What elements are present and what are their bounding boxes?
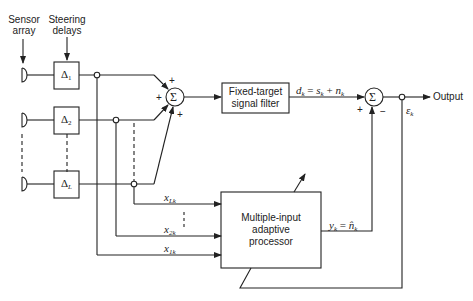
yk-label: yk = n̂k xyxy=(329,219,357,233)
tap-node-L xyxy=(131,181,137,187)
summer-1-symbol: Σ xyxy=(170,90,177,105)
input-x2k-label: x2k xyxy=(164,223,176,237)
adaptive-processor-label: Multiple-input adaptive processor xyxy=(221,192,321,268)
summer-2-symbol: Σ xyxy=(369,90,376,105)
output-label: Output xyxy=(433,91,463,102)
input-xLk-label: xLk xyxy=(164,191,176,205)
sensor-2-icon xyxy=(22,113,27,127)
fixed-target-filter-label: Fixed-target signal filter xyxy=(222,83,289,113)
tap-node-1 xyxy=(94,72,100,78)
sensor-array-label: Sensor array xyxy=(2,14,46,36)
delay-L-label: ΔL xyxy=(61,177,72,191)
tap-node-2 xyxy=(113,117,119,123)
summer-2-sign-minus: − xyxy=(380,106,386,117)
summer-1-sign-mid: + xyxy=(156,92,162,103)
summer-2-sign-plus: + xyxy=(357,104,363,115)
dk-label: dk = sk + nk xyxy=(296,84,344,98)
input-x1k-label: x1k xyxy=(164,242,176,256)
error-label: εk xyxy=(406,104,413,118)
delay-2-label: Δ2 xyxy=(61,113,72,127)
adaptation-arrow xyxy=(294,174,305,192)
summer-1-sign-bottom: + xyxy=(177,109,183,120)
sensor-1-icon xyxy=(22,68,27,82)
delay-1-label: Δ1 xyxy=(61,68,72,82)
summer-1-sign-top: + xyxy=(169,75,175,86)
output-node xyxy=(399,94,405,100)
sensor-L-icon xyxy=(22,177,27,191)
steering-delays-label: Steering delays xyxy=(44,14,90,36)
